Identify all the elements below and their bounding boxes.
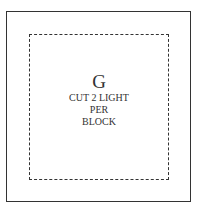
piece-label: G CUT 2 LIGHT PER BLOCK: [29, 72, 169, 128]
piece-letter: G: [29, 72, 169, 92]
instruction-line-1: CUT 2 LIGHT: [29, 92, 169, 104]
instruction-line-2: PER: [29, 104, 169, 116]
instruction-line-3: BLOCK: [29, 116, 169, 128]
